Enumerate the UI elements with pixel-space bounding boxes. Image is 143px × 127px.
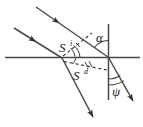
label-s-diffracted-base: S — [73, 68, 80, 83]
label-s-incident-superscript: i — [70, 39, 72, 48]
figure-canvas: S i S d α ψ — [0, 0, 143, 127]
label-s-diffracted: S d — [73, 67, 89, 83]
label-alpha-text: α — [96, 30, 104, 45]
incident-ray-lower — [14, 28, 62, 58]
optics-scattering-figure: S i S d α ψ — [0, 0, 143, 127]
label-s-incident: S i — [59, 39, 72, 55]
label-s-diffracted-superscript: d — [84, 67, 89, 76]
label-psi-text: ψ — [112, 84, 121, 99]
label-angle-psi: ψ — [112, 84, 121, 99]
label-s-incident-base: S — [59, 40, 66, 55]
label-angle-alpha: α — [96, 30, 104, 45]
